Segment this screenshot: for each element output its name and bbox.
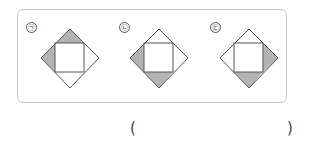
diamond-figure-2 — [129, 28, 189, 90]
answer-close-paren: ) — [287, 119, 293, 137]
answer-open-paren: ( — [130, 119, 136, 137]
diamond-figure-1 — [40, 28, 100, 90]
diamond-figure-3 — [219, 28, 279, 90]
option-label-1: ㉠ — [26, 22, 37, 33]
